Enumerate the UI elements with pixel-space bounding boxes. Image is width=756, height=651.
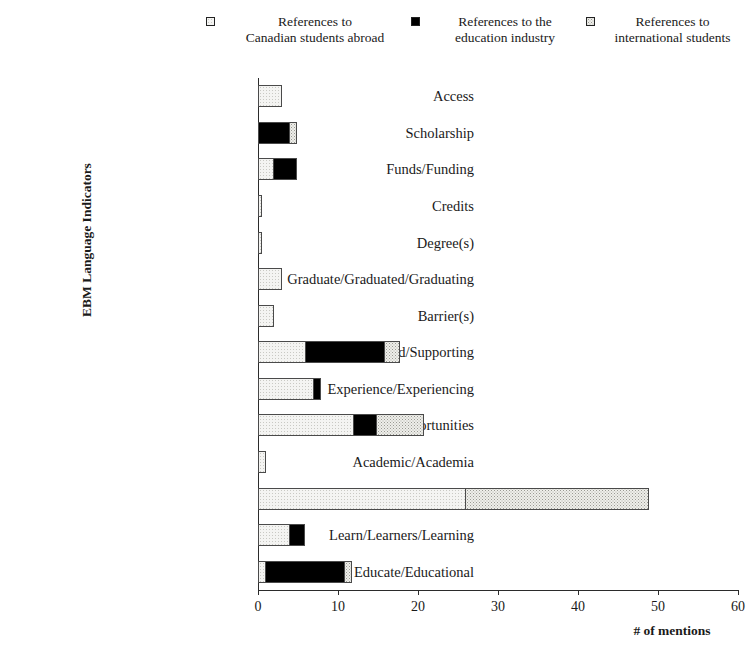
bar-row: Oppportunity/Opportunities — [258, 407, 738, 444]
bar-row: Access — [258, 78, 738, 115]
bar-segment — [258, 158, 274, 180]
bar-row: Academic/Academia — [258, 444, 738, 481]
legend-label-line1: References to — [636, 14, 710, 29]
legend-label-line1: References to — [278, 14, 352, 29]
legend-label-education-industry: References to the education industry — [424, 14, 586, 46]
legend-label-line2: education industry — [455, 30, 555, 45]
x-axis-tick-label: 20 — [411, 599, 425, 615]
y-axis-category-label: Academic/Academia — [352, 453, 474, 471]
stacked-bar — [258, 268, 282, 290]
bar-segment — [258, 122, 290, 144]
bar-segment — [344, 561, 352, 583]
x-axis-tick — [578, 590, 579, 595]
y-axis-category-label: Barrier(s) — [418, 307, 474, 325]
chart-plot-area: 0102030405060 AccessScholarshipFunds/Fun… — [258, 78, 738, 590]
legend-label-line1: References to the — [458, 14, 552, 29]
stacked-bar — [258, 561, 354, 583]
y-axis-category-label: Access — [433, 87, 474, 105]
bar-segment — [265, 561, 345, 583]
stacked-bar — [258, 158, 298, 180]
stacked-bar — [258, 378, 322, 400]
stacked-bar — [258, 414, 426, 436]
bar-row: Educate/Educational — [258, 553, 738, 590]
bar-row: Degree(s) — [258, 224, 738, 261]
legend-entry-canadian-students-abroad: References to Canadian students abroad — [206, 14, 411, 46]
bar-segment — [258, 85, 282, 107]
bar-row: Credits — [258, 188, 738, 225]
y-axis-category-label: Degree(s) — [417, 234, 474, 252]
legend-entry-education-industry: References to the education industry — [411, 14, 586, 46]
legend-label-line2: Canadian students abroad — [246, 30, 385, 45]
stacked-bar — [258, 195, 262, 217]
bar-segment — [289, 122, 297, 144]
bar-segment — [289, 524, 305, 546]
x-axis-tick-label: 50 — [651, 599, 665, 615]
bar-row: Graduate/Graduated/Graduating — [258, 261, 738, 298]
legend-entry-international-students: References to international students — [586, 14, 746, 46]
stacked-bar — [258, 305, 274, 327]
y-axis-category-label: Learn/Learners/Learning — [329, 526, 474, 544]
stacked-bar — [258, 488, 650, 510]
bar-segment — [273, 158, 297, 180]
bar-segment — [258, 378, 314, 400]
bar-row: Learn/Learners/Learning — [258, 517, 738, 554]
x-axis-tick — [338, 590, 339, 595]
bar-segment — [258, 524, 290, 546]
y-axis-category-label: Educate/Educational — [354, 563, 474, 581]
x-axis-tick-label: 0 — [255, 599, 262, 615]
bar-segment — [384, 341, 400, 363]
bar-segment — [376, 414, 424, 436]
x-axis-tick-label: 40 — [571, 599, 585, 615]
bar-row: Experience/Experiencing — [258, 371, 738, 408]
x-axis-tick-label: 60 — [731, 599, 745, 615]
y-axis-category-label: Graduate/Graduated/Graduating — [287, 270, 474, 288]
stacked-bar — [258, 524, 306, 546]
y-axis-category-label: Experience/Experiencing — [327, 380, 474, 398]
bar-segment — [258, 195, 262, 217]
bar-segment — [305, 341, 385, 363]
bar-segment — [258, 451, 266, 473]
bar-segment — [313, 378, 321, 400]
stacked-bar — [258, 122, 298, 144]
empty-square-swatch-icon — [206, 17, 215, 26]
x-axis-tick-label: 30 — [491, 599, 505, 615]
bar-row: Funds/Funding — [258, 151, 738, 188]
y-axis-category-label: Scholarship — [406, 124, 474, 142]
bar-segment — [258, 305, 274, 327]
legend-label-line2: international students — [615, 30, 731, 45]
bar-row: Barrier(s) — [258, 297, 738, 334]
stippled-square-swatch-icon — [586, 17, 595, 26]
bar-row: Scholarship — [258, 115, 738, 152]
stacked-bar — [258, 85, 282, 107]
x-axis-tick-label: 10 — [331, 599, 345, 615]
filled-square-swatch-icon — [411, 17, 420, 26]
y-axis-category-label: Credits — [432, 197, 474, 215]
legend-label-canadian-students-abroad: References to Canadian students abroad — [219, 14, 411, 46]
stacked-bar — [258, 232, 262, 254]
bar-segment — [258, 268, 282, 290]
chart-legend: References to Canadian students abroad R… — [206, 14, 746, 58]
bar-segment — [258, 414, 354, 436]
x-axis-tick — [258, 590, 259, 595]
y-axis-category-label: Funds/Funding — [386, 160, 474, 178]
stacked-bar — [258, 341, 402, 363]
bar-segment — [258, 488, 466, 510]
bar-segment — [465, 488, 649, 510]
x-axis-tick — [418, 590, 419, 595]
bar-segment — [353, 414, 377, 436]
y-axis-title: EBM Language Indicators — [79, 145, 95, 335]
bar-row: Study/Studying — [258, 480, 738, 517]
x-axis-tick — [738, 590, 739, 595]
bar-segment — [258, 341, 306, 363]
bar-row: Support/Supported/Supporting — [258, 334, 738, 371]
legend-label-international-students: References to international students — [599, 14, 746, 46]
x-axis-tick — [498, 590, 499, 595]
x-axis-tick — [658, 590, 659, 595]
x-axis-title: # of mentions — [596, 623, 748, 639]
stacked-bar — [258, 451, 266, 473]
bar-segment — [258, 232, 262, 254]
